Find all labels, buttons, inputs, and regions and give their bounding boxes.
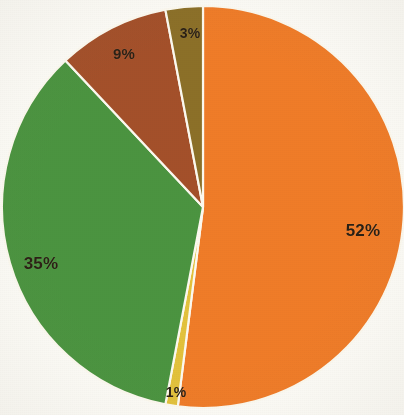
slice-label-green: 35% xyxy=(24,254,59,274)
pie-chart-canvas xyxy=(0,0,404,415)
slice-label-yellow: 1% xyxy=(166,384,187,400)
pie-slice-group xyxy=(2,6,404,408)
pie-chart-figure: 52% 1% 35% 9% 3% xyxy=(0,0,404,415)
slice-label-brown: 9% xyxy=(113,45,135,62)
slice-label-olive: 3% xyxy=(180,25,201,41)
slice-label-orange: 52% xyxy=(346,221,381,241)
slice-orange xyxy=(178,6,404,408)
